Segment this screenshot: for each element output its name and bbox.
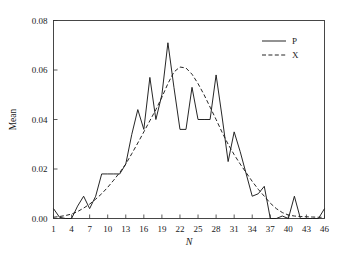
y-tick-label: 0.06 (32, 65, 48, 75)
series-line-p (54, 43, 325, 219)
chart-figure: 0.000.020.040.060.08 1471013161922252831… (0, 0, 341, 258)
x-tick-label: 43 (302, 224, 312, 234)
x-tick-label: 4 (69, 224, 74, 234)
x-tick-label: 19 (157, 224, 167, 234)
legend-label-x: X (292, 50, 299, 60)
x-tick-label: 7 (87, 224, 92, 234)
chart-legend: PX (262, 36, 299, 60)
legend-label-p: P (292, 36, 297, 46)
x-tick-label: 28 (212, 224, 222, 234)
y-tick-label: 0.00 (32, 214, 48, 224)
y-axis-title: Mean (8, 108, 18, 130)
x-tick-label: 13 (121, 224, 131, 234)
x-tick-label: 37 (266, 224, 276, 234)
x-tick-label: 40 (284, 224, 294, 234)
x-tick-label: 25 (194, 224, 204, 234)
y-tick-label: 0.08 (32, 16, 48, 26)
x-tick-label: 22 (175, 224, 184, 234)
line-chart: 0.000.020.040.060.08 1471013161922252831… (0, 0, 341, 258)
y-tick-label: 0.04 (32, 115, 48, 125)
x-tick-label: 16 (139, 224, 149, 234)
x-axis-title: N (185, 236, 194, 247)
x-axis: 14710131619222528313437404346 (51, 215, 329, 234)
plot-frame (54, 21, 325, 219)
x-tick-label: 10 (103, 224, 113, 234)
x-tick-label: 34 (248, 224, 258, 234)
y-tick-label: 0.02 (32, 164, 48, 174)
data-series-group (54, 43, 325, 219)
x-tick-label: 31 (230, 224, 239, 234)
series-line-x (54, 67, 325, 217)
x-tick-label: 46 (320, 224, 330, 234)
x-tick-label: 1 (51, 224, 56, 234)
